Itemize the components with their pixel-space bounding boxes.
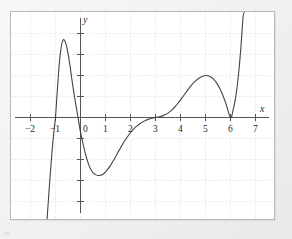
x-axis-label: x — [260, 104, 264, 114]
function-graph-svg — [11, 12, 274, 219]
xtick-label-5: 5 — [203, 125, 208, 135]
graph-screenshot: −2 −1 0 1 2 3 4 5 6 7 x y ab — [0, 0, 292, 239]
corner-artifact: ab — [4, 230, 14, 236]
plot-frame: −2 −1 0 1 2 3 4 5 6 7 x y — [10, 11, 275, 220]
y-axis-label: y — [83, 15, 87, 25]
xtick-label--2: −2 — [25, 125, 35, 135]
xtick-label-2: 2 — [128, 125, 133, 135]
xtick-label-3: 3 — [153, 125, 158, 135]
xtick-label--1: −1 — [50, 125, 60, 135]
vertical-gridlines — [31, 12, 256, 219]
xtick-label-1: 1 — [103, 125, 108, 135]
xtick-label-6: 6 — [228, 125, 233, 135]
function-curve — [47, 13, 245, 220]
xtick-label-0: 0 — [83, 125, 88, 135]
xtick-label-7: 7 — [253, 125, 258, 135]
xtick-label-4: 4 — [178, 125, 183, 135]
